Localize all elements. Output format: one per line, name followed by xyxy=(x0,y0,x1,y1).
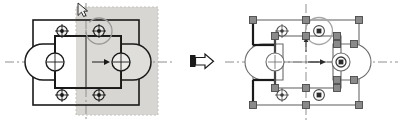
selection-handle[interactable] xyxy=(250,102,257,109)
panel-connector xyxy=(180,0,220,126)
selection-handle[interactable] xyxy=(303,17,310,24)
selection-handle[interactable] xyxy=(351,41,358,48)
hole-top-right-center-marker xyxy=(317,29,322,34)
panel-after[interactable] xyxy=(220,0,403,126)
hole-bottom-right-center-marker xyxy=(317,93,322,98)
selection-handle[interactable] xyxy=(272,85,279,92)
selection-handle[interactable] xyxy=(250,17,257,24)
selection-handle[interactable] xyxy=(356,17,363,24)
selection-handle[interactable] xyxy=(334,41,341,48)
transformation-arrow-icon xyxy=(190,54,214,69)
panel-before[interactable] xyxy=(0,0,180,126)
figure-canvas: CAD part selection and transformation Te… xyxy=(0,0,403,126)
arrow-outline xyxy=(196,54,214,69)
selection-handle[interactable] xyxy=(351,77,358,84)
selection-handle[interactable] xyxy=(303,102,310,109)
selection-handle[interactable] xyxy=(272,33,279,40)
selection-handle[interactable] xyxy=(356,102,363,109)
hole-bottom-right[interactable] xyxy=(314,90,325,101)
right-lug-hole[interactable] xyxy=(332,53,350,71)
selection-handle[interactable] xyxy=(303,85,310,92)
hole-bottom-left[interactable] xyxy=(55,88,69,102)
direction-arrow-marker xyxy=(304,38,326,65)
selection-handle[interactable] xyxy=(334,85,341,92)
selection-handle[interactable] xyxy=(334,77,341,84)
selection-handle[interactable] xyxy=(303,33,310,40)
arrow-tail-block xyxy=(190,55,196,67)
selection-handle[interactable] xyxy=(334,33,341,40)
right-lug-hole-center-marker xyxy=(339,60,344,65)
